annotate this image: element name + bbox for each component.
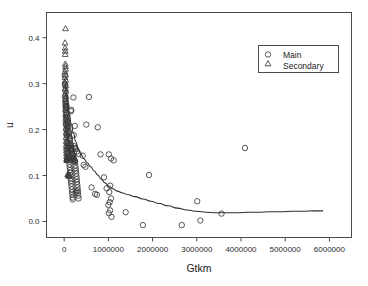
x-tick-label: 1000000 — [93, 245, 125, 254]
legend-label-secondary: Secondary — [283, 61, 324, 71]
x-tick-label: 3000000 — [181, 245, 213, 254]
scatter-plot-figure: 0.00.10.20.30.4 010000002000000300000040… — [0, 0, 368, 286]
legend-label-main: Main — [283, 50, 302, 60]
y-tick-label: 0.3 — [28, 80, 40, 89]
y-tick-label: 0.1 — [28, 172, 40, 181]
y-axis-title: u — [3, 122, 15, 128]
x-tick-label: 5000000 — [270, 245, 302, 254]
chart-canvas: 0.00.10.20.30.4 010000002000000300000040… — [0, 0, 368, 286]
y-tick-label: 0.4 — [28, 34, 40, 43]
y-tick-label: 0.0 — [28, 217, 40, 226]
x-tick-label: 2000000 — [137, 245, 169, 254]
x-axis-title: Gtkm — [186, 262, 211, 274]
x-tick-label: 6000000 — [314, 245, 346, 254]
chart-legend: Main Secondary — [259, 46, 339, 73]
y-tick-label: 0.2 — [28, 126, 40, 135]
x-tick-label: 4000000 — [225, 245, 257, 254]
x-tick-label: 0 — [62, 245, 67, 254]
plot-background — [0, 0, 368, 286]
